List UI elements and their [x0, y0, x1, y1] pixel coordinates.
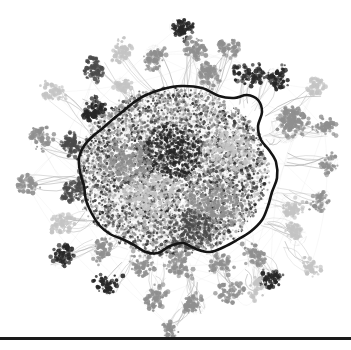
- network-graph-canvas: [0, 0, 351, 350]
- figure-root: [0, 0, 351, 350]
- figure-horizontal-rule: [0, 337, 351, 340]
